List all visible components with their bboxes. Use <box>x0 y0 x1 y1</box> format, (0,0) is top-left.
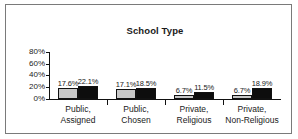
y-axis-tick-mark <box>46 99 49 100</box>
bar[interactable]: 22.1% <box>78 86 98 99</box>
y-axis-tick-label: 20% <box>29 82 45 91</box>
bar[interactable]: 18.9% <box>252 88 272 99</box>
y-axis-tick-label: 40% <box>29 70 45 79</box>
bar[interactable]: 11.5% <box>194 92 214 99</box>
bar-value-label: 18.5% <box>136 79 156 88</box>
bar-value-label: 17.1% <box>116 80 136 89</box>
bar-group: 17.1%18.5% <box>107 52 165 99</box>
bar-group: 6.7%11.5% <box>165 52 223 99</box>
bar-value-label: 17.6% <box>58 79 78 88</box>
y-axis-tick-label: 0% <box>33 94 45 103</box>
bar-group-bars: 6.7%11.5% <box>165 52 223 99</box>
x-axis-category-label: Private,Non-Religious <box>218 104 286 125</box>
bar[interactable]: 17.6% <box>58 88 78 98</box>
bar-value-label: 18.9% <box>252 79 272 88</box>
bar-value-label: 6.7% <box>234 86 250 95</box>
bar[interactable]: 18.5% <box>136 88 156 99</box>
bar-group-bars: 17.1%18.5% <box>107 52 165 99</box>
bar-value-label: 11.5% <box>194 83 214 92</box>
category-label-line: Non-Religious <box>218 115 286 126</box>
y-axis-tick-label: 80% <box>29 47 45 56</box>
bar-value-label: 22.1% <box>78 77 98 86</box>
y-axis-tick-label: 60% <box>29 59 45 68</box>
bar[interactable]: 6.7% <box>232 95 252 99</box>
bar[interactable]: 17.1% <box>116 89 136 99</box>
bar-group-bars: 17.6%22.1% <box>49 52 107 99</box>
bar-value-label: 6.7% <box>176 86 192 95</box>
bar-group-bars: 6.7%18.9% <box>223 52 281 99</box>
chart-frame: School Type 80%60%40%20%0% 17.6%22.1%17.… <box>5 4 292 134</box>
chart-title: School Type <box>6 25 298 36</box>
category-label-line: Private, <box>218 104 286 115</box>
bar[interactable]: 6.7% <box>174 95 194 99</box>
plot-area: 80%60%40%20%0% 17.6%22.1%17.1%18.5%6.7%1… <box>49 52 281 100</box>
bar-group: 17.6%22.1% <box>49 52 107 99</box>
bar-group: 6.7%18.9% <box>223 52 281 99</box>
